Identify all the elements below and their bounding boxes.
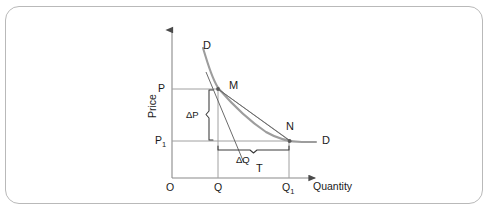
chord-line-secondary [218,89,292,142]
tick-label-quantity-high-sub: 1 [290,187,294,196]
tick-label-quantity-high-base: Q [282,181,290,193]
y-axis-label: Price [146,94,158,118]
tick-label-price-high: P [158,83,165,94]
tangent-line [206,72,244,163]
delta-q-bracket [218,146,289,153]
delta-p-label: ΔP [186,110,199,120]
diagram-page: Price Quantity O P P1 Q Q1 D D M N T ΔP … [0,0,492,216]
delta-p-bracket [206,90,213,140]
tick-label-quantity-low: Q [214,182,222,193]
demand-curve-label-top: D [203,40,211,51]
point-marker-n [288,139,292,143]
tangent-label: T [256,163,263,174]
tick-label-quantity-high: Q1 [282,182,294,196]
elasticity-diagram [0,0,492,216]
origin-label: O [166,182,174,193]
point-label-m: M [229,80,238,91]
tick-label-price-low-sub: 1 [162,140,166,149]
demand-curve [203,48,316,142]
tick-label-price-low: P1 [155,135,166,149]
point-label-n: N [286,121,294,132]
delta-q-label: ΔQ [236,155,250,165]
tick-label-price-low-base: P [155,134,162,146]
point-marker-m [216,87,220,91]
demand-curve-label-right: D [322,135,330,146]
x-axis-label: Quantity [313,181,352,192]
